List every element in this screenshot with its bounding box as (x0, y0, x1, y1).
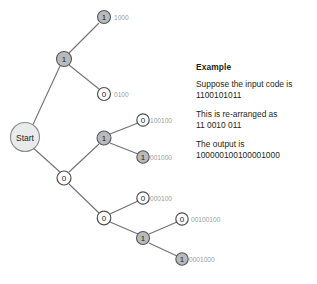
edge-1-to-1 (69, 23, 99, 53)
edge-0-to-0 (69, 184, 99, 213)
node-1[interactable]: 1 (57, 52, 72, 67)
code-label-100100: 100100 (150, 117, 172, 124)
diagram-canvas: Start 1 1 1000 0 0100 0 1 0 (0, 0, 317, 284)
edge-00-to-1 (110, 222, 138, 234)
node-0-0-1-1[interactable]: 1 0001000 (176, 253, 215, 265)
edge-1-to-0 (69, 65, 99, 89)
node-1-label: 1 (62, 55, 67, 64)
example-rearranged-code: 11 0010 011 (196, 120, 314, 131)
edge-001-to-1 (149, 243, 177, 256)
node-1-1-label: 1 (102, 13, 107, 22)
code-label-00100100: 00100100 (191, 216, 221, 223)
example-input-block: Suppose the input code is 1100101011 (196, 79, 314, 102)
edge-0-to-1 (69, 144, 99, 172)
node-0-0-0-label: 0 (141, 194, 146, 203)
example-rearranged-caption: This is re-arranged as (196, 109, 314, 120)
node-0-0[interactable]: 0 (97, 211, 111, 225)
edge-01-to-0 (110, 123, 138, 134)
node-0-0-1-label: 1 (141, 234, 146, 243)
code-label-0100: 0100 (114, 91, 129, 98)
node-start[interactable]: Start (11, 123, 40, 152)
node-0-0-label: 0 (102, 214, 107, 223)
example-output-caption: The output is (196, 139, 314, 150)
example-rearranged-block: This is re-arranged as 11 0010 011 (196, 109, 314, 132)
example-heading: Example (196, 62, 314, 73)
code-label-0001000: 0001000 (189, 256, 215, 263)
edge-001-to-0 (149, 222, 177, 234)
node-0-1[interactable]: 1 (97, 131, 111, 145)
node-0-label: 0 (62, 174, 67, 183)
node-0-0-0[interactable]: 0 000100 (137, 192, 173, 204)
edge-start-to-0 (31, 146, 60, 172)
node-1-1[interactable]: 1 1000 (98, 11, 130, 24)
node-0-0-1[interactable]: 1 (137, 232, 150, 245)
example-input-caption: Suppose the input code is (196, 79, 314, 90)
node-0-1-1[interactable]: 1 001000 (137, 151, 173, 163)
node-1-0[interactable]: 0 0100 (98, 88, 130, 101)
code-label-001000: 001000 (150, 154, 172, 161)
node-0[interactable]: 0 (57, 171, 71, 185)
edge-start-to-1 (30, 66, 60, 131)
example-input-code: 1100101011 (196, 90, 314, 101)
node-0-1-0[interactable]: 0 100100 (137, 114, 173, 126)
code-label-000100: 000100 (150, 195, 172, 202)
example-panel: Example Suppose the input code is 110010… (196, 62, 314, 168)
edge-01-to-1 (110, 143, 138, 154)
edge-00-to-0 (110, 201, 138, 214)
node-0-0-1-0-label: 0 (180, 215, 185, 224)
node-0-0-1-0[interactable]: 0 00100100 (176, 213, 221, 225)
node-0-1-1-label: 1 (141, 153, 146, 162)
node-0-0-1-1-label: 1 (180, 255, 185, 264)
example-output-block: The output is 100000100100001000 (196, 139, 314, 162)
node-0-1-0-label: 0 (141, 116, 146, 125)
node-1-0-label: 0 (102, 90, 107, 99)
code-label-1000: 1000 (114, 14, 129, 21)
node-0-1-label: 1 (102, 134, 107, 143)
node-start-label: Start (16, 133, 35, 143)
example-output-code: 100000100100001000 (196, 150, 314, 161)
